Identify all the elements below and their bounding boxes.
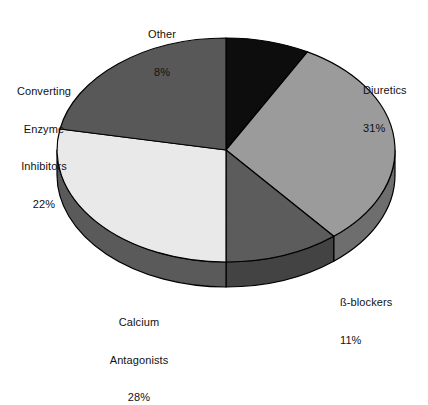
pie-slices-group xyxy=(57,38,395,287)
pie-top-faces xyxy=(57,38,395,262)
slice-label-bblockers-percent: 11% xyxy=(340,334,392,347)
slice-label-converting-enzyme-inhibitors: Converting Enzyme Inhibitors 22% xyxy=(2,60,86,235)
slice-label-other-percent: 8% xyxy=(126,66,198,79)
slice-label-cei-line3: Inhibitors xyxy=(2,160,86,173)
slice-label-diuretics-name: Diuretics xyxy=(363,84,407,97)
slice-label-cei-percent: 22% xyxy=(2,198,86,211)
slice-label-calcium-percent: 28% xyxy=(91,391,187,404)
slice-label-cei-line1: Converting xyxy=(2,85,86,98)
slice-label-bblockers: ß-blockers 11% xyxy=(340,271,392,371)
slice-label-cei-line2: Enzyme xyxy=(2,123,86,136)
slice-label-diuretics: Diuretics 31% xyxy=(363,59,407,159)
slice-label-other-name: Other xyxy=(126,28,198,41)
slice-label-calcium-line1: Calcium xyxy=(91,316,187,329)
slice-label-bblockers-name: ß-blockers xyxy=(340,296,392,309)
slice-label-calcium-line2: Antagonists xyxy=(91,354,187,367)
slice-label-diuretics-percent: 31% xyxy=(363,122,407,135)
slice-label-calcium-antagonists: Calcium Antagonists 28% xyxy=(91,291,187,405)
slice-label-other: Other 8% xyxy=(126,3,198,103)
